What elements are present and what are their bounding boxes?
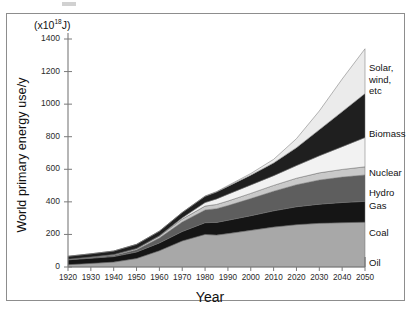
y-tick-label: 1000 bbox=[26, 98, 60, 108]
y-tick-label: 0 bbox=[26, 261, 60, 271]
legend-label-hydro: Hydro bbox=[369, 187, 394, 199]
legend-label-line: Hydro bbox=[369, 187, 394, 199]
y-tick-label: 1400 bbox=[26, 33, 60, 43]
legend-label-line: Oil bbox=[369, 257, 381, 269]
stacked-area-chart bbox=[0, 0, 412, 316]
legend-label-gas: Gas bbox=[369, 200, 386, 212]
legend-label-coal: Coal bbox=[369, 227, 389, 239]
y-tick-label: 600 bbox=[26, 163, 60, 173]
y-tick-label: 200 bbox=[26, 228, 60, 238]
legend-label-line: Biomass bbox=[369, 128, 405, 140]
legend-label-line: Nuclear bbox=[369, 167, 402, 179]
legend-label-biomass: Biomass bbox=[369, 128, 405, 140]
legend-label-line: Coal bbox=[369, 227, 389, 239]
y-tick-label: 1200 bbox=[26, 66, 60, 76]
legend-label-solar: Solar,wind,etc bbox=[369, 62, 393, 97]
y-tick-label: 800 bbox=[26, 131, 60, 141]
y-tick-label: 400 bbox=[26, 196, 60, 206]
legend-label-nuclear: Nuclear bbox=[369, 167, 402, 179]
legend-label-line: wind, bbox=[369, 74, 393, 86]
figure-container: (x1018J) World primary energy use/y Year… bbox=[0, 0, 412, 316]
chart-series-group bbox=[68, 49, 365, 267]
x-tick-label: 2050 bbox=[352, 273, 378, 282]
legend-label-oil: Oil bbox=[369, 257, 381, 269]
legend-label-line: etc bbox=[369, 85, 393, 97]
legend-label-line: Gas bbox=[369, 200, 386, 212]
legend-label-line: Solar, bbox=[369, 62, 393, 74]
